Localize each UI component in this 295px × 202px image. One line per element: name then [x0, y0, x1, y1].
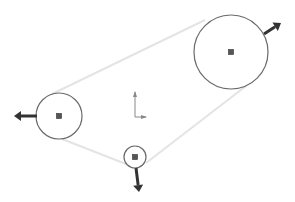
large-pulley-drag-arrow[interactable] — [264, 23, 281, 34]
arrow-shaft[interactable] — [264, 27, 275, 34]
pulley-circles — [36, 15, 268, 168]
center-point-icon[interactable] — [133, 155, 138, 160]
arrow-shaft[interactable] — [136, 168, 138, 185]
tangent-line[interactable] — [52, 20, 205, 94]
arrowhead-icon[interactable] — [133, 184, 143, 192]
center-point-icon[interactable] — [57, 114, 62, 119]
tangent-line[interactable] — [62, 139, 126, 164]
belt-tangent-lines — [52, 20, 246, 164]
center-point-icon[interactable] — [229, 50, 234, 55]
origin-axes-icon — [135, 92, 146, 117]
large-pulley[interactable] — [194, 15, 268, 89]
left-pulley[interactable] — [36, 93, 82, 139]
small-pulley[interactable] — [124, 146, 146, 168]
small-pulley-drag-arrow[interactable] — [133, 168, 143, 192]
arrowhead-icon[interactable] — [14, 111, 21, 121]
left-pulley-drag-arrow[interactable] — [14, 111, 37, 121]
tangent-line[interactable] — [146, 86, 246, 163]
sketch-canvas[interactable] — [0, 0, 295, 202]
